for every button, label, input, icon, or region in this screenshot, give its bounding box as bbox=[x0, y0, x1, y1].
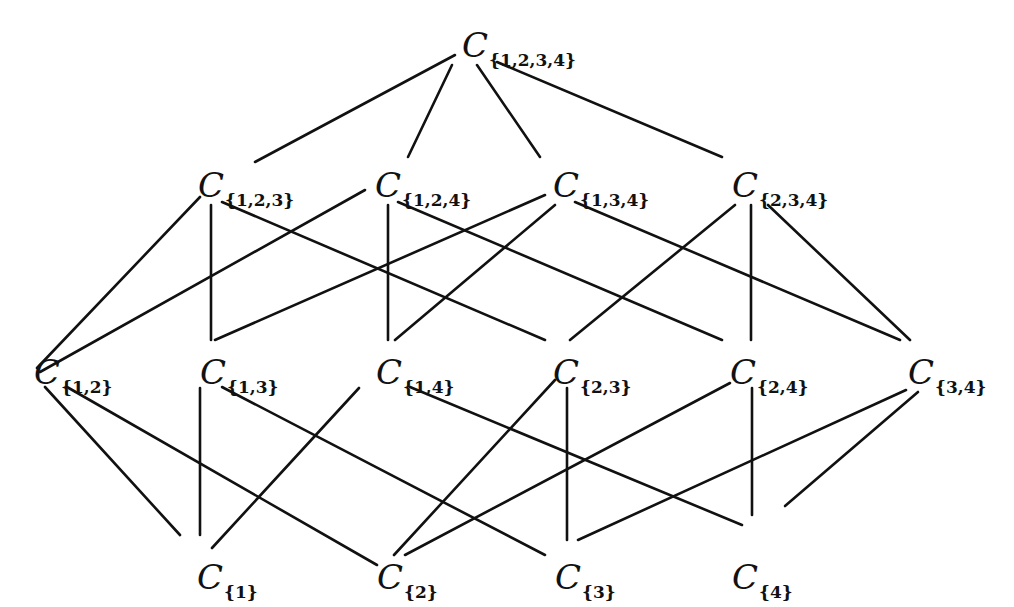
node-subscript: {1,2,3,4} bbox=[489, 50, 576, 70]
edge-134-34 bbox=[575, 202, 900, 340]
node-symbol: C bbox=[555, 557, 581, 597]
edge-13-3 bbox=[222, 387, 545, 555]
node-1234: C{1,2,3,4} bbox=[462, 28, 576, 62]
node-symbol: C bbox=[197, 557, 223, 597]
edge-layer bbox=[0, 0, 1014, 607]
node-34: C{3,4} bbox=[908, 355, 986, 389]
node-subscript: {4} bbox=[759, 582, 793, 602]
edge-12-1 bbox=[45, 387, 180, 535]
node-subscript: {2} bbox=[404, 582, 438, 602]
node-subscript: {2,4} bbox=[757, 377, 808, 397]
node-subscript: {2,3,4} bbox=[759, 190, 828, 210]
edge-14-4 bbox=[410, 387, 742, 525]
node-subscript: {2,3} bbox=[580, 377, 631, 397]
node-subscript: {1,4} bbox=[403, 377, 454, 397]
edge-1234-134 bbox=[477, 65, 540, 157]
node-234: C{2,3,4} bbox=[732, 168, 828, 202]
node-symbol: C bbox=[200, 352, 226, 392]
node-symbol: C bbox=[462, 25, 488, 65]
node-1: C{1} bbox=[197, 560, 258, 594]
node-subscript: {1} bbox=[224, 582, 258, 602]
node-symbol: C bbox=[34, 352, 60, 392]
node-12: C{1,2} bbox=[34, 355, 112, 389]
node-4: C{4} bbox=[732, 560, 793, 594]
node-subscript: {1,2,3} bbox=[225, 190, 294, 210]
node-subscript: {3} bbox=[582, 582, 616, 602]
node-symbol: C bbox=[732, 557, 758, 597]
edge-14-1 bbox=[212, 388, 359, 548]
node-13: C{1,3} bbox=[200, 355, 278, 389]
lattice-diagram: C{1,2,3,4}C{1,2,3}C{1,2,4}C{1,3,4}C{2,3,… bbox=[0, 0, 1014, 607]
edge-34-3 bbox=[578, 390, 906, 540]
node-symbol: C bbox=[730, 352, 756, 392]
node-symbol: C bbox=[553, 352, 579, 392]
edge-1234-123 bbox=[255, 55, 455, 162]
node-subscript: {1,2} bbox=[61, 377, 112, 397]
edge-234-34 bbox=[768, 205, 910, 340]
node-24: C{2,4} bbox=[730, 355, 808, 389]
node-123: C{1,2,3} bbox=[198, 168, 294, 202]
node-symbol: C bbox=[377, 557, 403, 597]
node-symbol: C bbox=[732, 165, 758, 205]
node-symbol: C bbox=[553, 165, 579, 205]
edge-234-23 bbox=[570, 205, 735, 340]
node-subscript: {3,4} bbox=[935, 377, 986, 397]
node-symbol: C bbox=[198, 165, 224, 205]
edge-23-2 bbox=[394, 380, 555, 555]
node-3: C{3} bbox=[555, 560, 616, 594]
node-subscript: {1,3,4} bbox=[580, 190, 649, 210]
node-134: C{1,3,4} bbox=[553, 168, 649, 202]
node-2: C{2} bbox=[377, 560, 438, 594]
node-symbol: C bbox=[375, 165, 401, 205]
node-symbol: C bbox=[376, 352, 402, 392]
node-subscript: {1,3} bbox=[227, 377, 278, 397]
edge-124-12 bbox=[40, 190, 365, 372]
edge-123-23 bbox=[222, 202, 545, 340]
node-23: C{2,3} bbox=[553, 355, 631, 389]
edge-124-24 bbox=[398, 202, 722, 340]
node-subscript: {1,2,4} bbox=[402, 190, 471, 210]
node-14: C{1,4} bbox=[376, 355, 454, 389]
node-124: C{1,2,4} bbox=[375, 168, 471, 202]
node-symbol: C bbox=[908, 352, 934, 392]
edge-1234-124 bbox=[408, 65, 452, 157]
edge-34-4 bbox=[785, 392, 918, 506]
edge-123-12 bbox=[37, 197, 200, 368]
